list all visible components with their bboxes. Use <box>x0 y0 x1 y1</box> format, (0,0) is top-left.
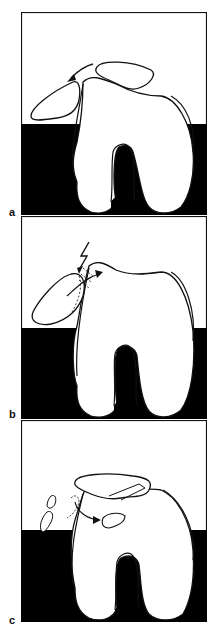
panel-label-b: b <box>9 408 16 420</box>
panel-c <box>21 420 207 622</box>
panel-label-c: c <box>9 614 15 626</box>
knee-diagram-b <box>21 216 207 419</box>
panel-b <box>21 216 207 419</box>
knee-diagram-c <box>21 420 207 622</box>
panel-a <box>21 12 207 215</box>
knee-diagram-a <box>21 12 207 215</box>
panel-label-a: a <box>9 206 15 218</box>
